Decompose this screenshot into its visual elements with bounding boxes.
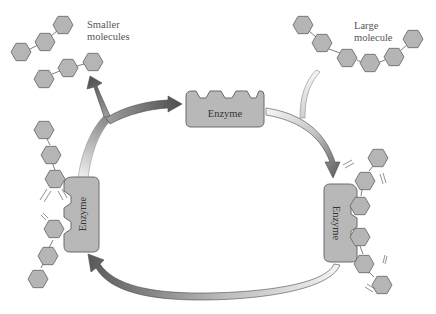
hexagon-icon xyxy=(372,276,392,293)
enzyme-substrate-complex: Enzyme xyxy=(324,184,357,262)
arrow-large-molecule-in xyxy=(300,70,320,118)
hexagon-icon xyxy=(350,197,370,214)
hexagon-icon xyxy=(293,16,313,33)
enzyme-cycle-diagram: Smaller molecules Large molecule xyxy=(0,0,436,314)
hexagon-icon xyxy=(35,33,55,50)
hexagon-icon xyxy=(58,59,78,76)
break-mark-icon xyxy=(40,189,51,202)
break-mark-icon xyxy=(383,255,387,264)
hexagon-icon xyxy=(360,54,380,71)
break-mark-icon xyxy=(41,213,48,220)
hexagon-icon xyxy=(350,228,370,245)
hexagon-icon xyxy=(53,16,73,33)
hexagon-icon xyxy=(11,43,31,60)
hexagon-icon xyxy=(368,149,388,166)
left-products xyxy=(28,121,67,287)
arrow-to-substrate-complex xyxy=(266,108,340,178)
hexagon-icon xyxy=(403,30,423,47)
hexagon-icon xyxy=(28,270,48,287)
hexagon-icon xyxy=(34,121,54,138)
hexagon-icon xyxy=(384,48,404,65)
hexagon-icon xyxy=(355,172,375,189)
hexagon-icon xyxy=(337,49,357,66)
arrow-left-stem xyxy=(78,116,110,178)
hexagon-icon xyxy=(83,53,103,70)
hexagon-icon xyxy=(45,170,65,187)
large-molecule-label: Large molecule xyxy=(354,20,393,43)
enzyme-free-label: Enzyme xyxy=(208,108,243,119)
hexagon-icon xyxy=(41,146,61,163)
hexagon-icon xyxy=(354,255,374,272)
enzyme-left-label: Enzyme xyxy=(77,196,88,231)
small-chain-1 xyxy=(11,16,73,60)
arrow-to-smaller-molecules xyxy=(87,76,110,117)
arrow-to-product-complex xyxy=(88,254,340,300)
enzyme-free: Enzyme xyxy=(186,91,264,127)
hexagon-icon xyxy=(38,247,58,264)
break-mark-icon xyxy=(343,160,354,168)
enzyme-right-label: Enzyme xyxy=(331,206,342,241)
hexagon-icon xyxy=(44,220,64,237)
smaller-label-line2: molecules xyxy=(87,31,130,42)
hexagon-icon xyxy=(34,70,54,87)
enzyme-product-complex: Enzyme xyxy=(64,177,99,252)
break-mark-icon xyxy=(380,173,386,184)
hexagon-icon xyxy=(312,34,332,51)
large-label-line1: Large xyxy=(354,20,379,31)
large-label-line2: molecule xyxy=(354,32,393,43)
smaller-molecules-label: Smaller molecules xyxy=(87,19,130,42)
arrow-to-free-enzyme xyxy=(106,96,182,124)
smaller-label-line1: Smaller xyxy=(87,19,120,30)
